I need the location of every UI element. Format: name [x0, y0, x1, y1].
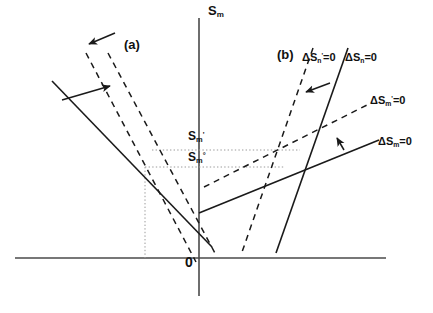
s-m-prime-label: Sm'	[188, 130, 204, 143]
y-axis-label: Sm	[208, 4, 224, 19]
curve-lines-group	[52, 48, 379, 262]
panel-b-label: (b)	[277, 48, 294, 61]
panel-a-label: (a)	[124, 38, 140, 51]
diagram-canvas	[0, 0, 433, 313]
delta-sm-prime-zero-label: ΔSm'=0	[370, 95, 405, 107]
s-m-zero-label: Sm°	[188, 151, 206, 164]
delta-sn-zero-label: ΔSn=0	[345, 52, 377, 64]
line-a-dashed-left	[86, 53, 196, 262]
arrow-a-upper	[89, 33, 115, 44]
line-b-dashed-steep	[241, 48, 313, 255]
origin-label: 0	[185, 255, 193, 269]
delta-sm-zero-label: ΔSm=0	[378, 136, 412, 148]
line-b-solid-steep	[276, 48, 348, 253]
arrow-a-lower	[62, 86, 110, 100]
delta-sn-prime-zero-label: ΔSn'=0	[302, 52, 336, 64]
arrow-b-lower	[337, 138, 344, 150]
arrow-b-upper	[306, 83, 330, 92]
figure-root: Sm 0 (a) (b) Sm'Sm° ΔSn'=0ΔSn=0ΔSm'=0ΔSm…	[0, 0, 433, 313]
line-b-dashed-flat	[204, 103, 371, 187]
